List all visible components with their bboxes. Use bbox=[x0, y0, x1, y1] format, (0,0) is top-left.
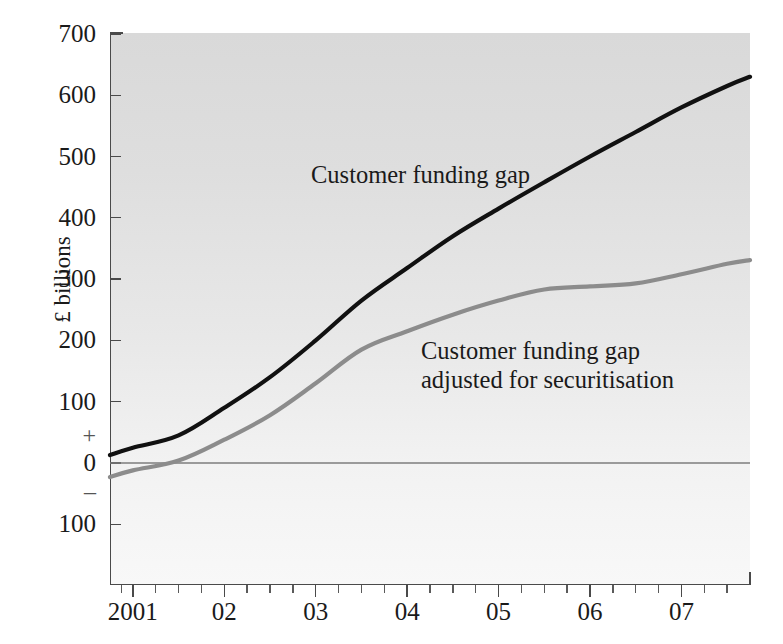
x-axis-tick bbox=[406, 585, 407, 597]
chart-figure: 7006005004003002001000100 +– £ billions … bbox=[0, 0, 783, 644]
y-axis-tick-label: 100 bbox=[8, 389, 96, 414]
x-axis-minor-tick bbox=[155, 585, 156, 593]
x-axis-minor-tick bbox=[246, 585, 247, 593]
x-axis-tick bbox=[681, 585, 682, 597]
x-axis-minor-tick bbox=[612, 585, 613, 593]
y-axis-tick bbox=[110, 217, 121, 218]
y-axis-tick bbox=[110, 401, 121, 402]
y-axis-tick bbox=[110, 33, 121, 34]
series-annotation-adjusted-for-securitisation: Customer funding gap adjusted for securi… bbox=[421, 336, 674, 394]
x-axis-right-cap bbox=[749, 572, 751, 585]
y-axis-tick bbox=[110, 524, 121, 525]
x-axis-minor-tick bbox=[429, 585, 430, 593]
y-axis-tick bbox=[110, 340, 121, 341]
x-axis-minor-tick bbox=[121, 585, 122, 593]
x-axis-minor-tick bbox=[635, 585, 636, 593]
x-axis-minor-tick bbox=[452, 585, 453, 593]
y-axis-tick-label: 700 bbox=[8, 21, 96, 46]
y-axis-tick-label: 600 bbox=[8, 82, 96, 107]
x-axis-minor-tick bbox=[726, 585, 727, 593]
x-axis-tick bbox=[498, 585, 499, 597]
x-axis-minor-tick bbox=[361, 585, 362, 593]
y-axis-tick-label: 100 bbox=[8, 511, 96, 536]
x-axis-tick bbox=[315, 585, 316, 597]
x-axis-minor-tick bbox=[201, 585, 202, 593]
y-axis-sign-marker: – bbox=[8, 479, 96, 503]
x-axis-minor-tick bbox=[269, 585, 270, 593]
y-axis-tick bbox=[110, 462, 121, 463]
y-axis-tick bbox=[110, 156, 121, 157]
y-axis-sign-marker: + bbox=[8, 423, 96, 447]
y-axis-tick bbox=[110, 278, 121, 279]
x-axis-tick-label: 07 bbox=[621, 598, 741, 626]
x-axis-minor-tick bbox=[475, 585, 476, 593]
y-axis-tick bbox=[110, 95, 121, 96]
x-axis-tick bbox=[589, 585, 590, 597]
y-axis-title: £ billions bbox=[51, 180, 74, 380]
series-annotation-customer-funding-gap: Customer funding gap bbox=[311, 160, 530, 189]
x-axis-minor-tick bbox=[178, 585, 179, 593]
y-axis-tick-label: 0 bbox=[8, 450, 96, 475]
x-axis-tick bbox=[224, 585, 225, 597]
plot-area bbox=[110, 33, 750, 585]
y-axis-tick-label: 500 bbox=[8, 144, 96, 169]
x-axis-tick bbox=[132, 585, 133, 597]
x-axis-minor-tick bbox=[658, 585, 659, 593]
x-axis-minor-tick bbox=[384, 585, 385, 593]
x-axis-minor-tick bbox=[521, 585, 522, 593]
x-axis-minor-tick bbox=[566, 585, 567, 593]
x-axis-minor-tick bbox=[704, 585, 705, 593]
x-axis-minor-tick bbox=[292, 585, 293, 593]
x-axis-minor-tick bbox=[338, 585, 339, 593]
x-axis-minor-tick bbox=[544, 585, 545, 593]
